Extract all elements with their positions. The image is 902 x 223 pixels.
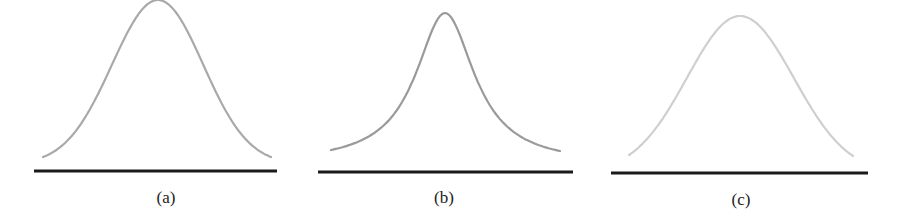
bell-curve-c	[629, 16, 853, 156]
panel-label-b: (b)	[434, 188, 454, 208]
panel-label-a: (a)	[157, 188, 176, 208]
bell-curve-b	[331, 13, 560, 151]
bell-curve-a	[43, 0, 271, 157]
panel-label-c: (c)	[732, 190, 751, 210]
panel-c	[611, 16, 868, 173]
panel-a	[34, 0, 277, 171]
panel-b	[318, 13, 573, 172]
